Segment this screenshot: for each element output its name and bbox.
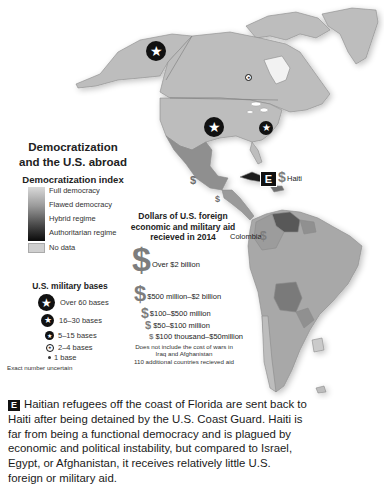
democratization-index-title: Democratization index bbox=[12, 174, 134, 185]
base-marker-central-us[interactable]: ★ bbox=[204, 117, 224, 137]
bases-label: 5–15 bases bbox=[58, 331, 97, 340]
falklands bbox=[316, 386, 326, 393]
bases-label: 2–4 bases bbox=[58, 343, 93, 352]
bases-legend-2-4: ★ 2–4 bases bbox=[46, 343, 93, 352]
legend-title-line1: Democratization bbox=[14, 140, 132, 155]
aid-dollar-haiti: $ bbox=[278, 169, 286, 185]
index-label-hybrid: Hybrid regime bbox=[49, 214, 96, 223]
no-data-swatch bbox=[28, 243, 45, 253]
dollar-medium-icon: $ bbox=[141, 306, 149, 320]
star-medium-icon: ★ bbox=[41, 314, 54, 327]
aid-note-line2: Iraq and Afghanistan bbox=[124, 350, 244, 357]
base-marker-canada[interactable]: ★ bbox=[245, 74, 252, 81]
aid-legend-100m-500m: $ $100–$500 million bbox=[141, 306, 211, 320]
bases-legend-16-30: ★ 16–30 bases bbox=[41, 314, 102, 327]
aid-dollar-colombia: $ bbox=[260, 229, 267, 243]
aid-label: Over $2 billion bbox=[152, 260, 200, 269]
legend-title-line2: and the U.S. abroad bbox=[14, 155, 132, 170]
bases-legend-1: 1 base bbox=[48, 353, 77, 362]
bases-legend-5-15: ★ 5–15 bases bbox=[45, 331, 97, 340]
star-tiny-icon: ★ bbox=[46, 344, 54, 352]
haiti-label: Haiti bbox=[287, 174, 302, 183]
aid-legend-title: Dollars of U.S. foreign economic and mil… bbox=[128, 211, 238, 243]
democratization-gradient-bar bbox=[28, 187, 45, 241]
aid-legend-100k-50m: $ $100 thousand–$50million bbox=[149, 332, 243, 341]
aid-dollar-central-america: $ bbox=[215, 194, 220, 204]
aid-note-line1: Does not include the cost of wars in bbox=[124, 343, 244, 350]
aid-label: $100 thousand–$50million bbox=[155, 332, 243, 341]
index-label-authoritarian: Authoritarian regime bbox=[49, 228, 117, 237]
index-label-no-data: No data bbox=[49, 243, 75, 252]
star-small-icon: ★ bbox=[45, 331, 54, 340]
base-marker-eastern-us[interactable]: ★ bbox=[259, 121, 273, 135]
aid-legend-50m-100m: $ $50–$100 million bbox=[145, 320, 210, 331]
legend-title: Democratization and the U.S. abroad bbox=[14, 140, 132, 170]
dollar-small-icon: $ bbox=[145, 320, 151, 331]
uruguay bbox=[312, 338, 324, 352]
aid-legend-note: Does not include the cost of wars in Ira… bbox=[124, 343, 244, 365]
greenland bbox=[322, 8, 378, 64]
dollar-xlarge-icon: $ bbox=[132, 242, 151, 276]
index-label-full: Full democracy bbox=[49, 186, 100, 195]
bases-legend-title: U.S. military bases bbox=[20, 281, 120, 291]
photo-marker-e[interactable]: E bbox=[260, 171, 277, 187]
star-large-icon: ★ bbox=[38, 294, 55, 311]
aid-legend-500m-2b: $ $500 million–$2 billion bbox=[134, 283, 221, 305]
photo-caption: EHaitian refugees off the coast of Flori… bbox=[8, 397, 308, 485]
aid-label: $100–$500 million bbox=[150, 309, 211, 318]
aid-title-line2: economic and military aid bbox=[128, 222, 238, 233]
aid-title-line1: Dollars of U.S. foreign bbox=[128, 211, 238, 222]
index-label-flawed: Flawed democracy bbox=[49, 200, 112, 209]
aid-dollar-mexico: $ bbox=[190, 174, 196, 186]
bases-legend-over-60: ★ Over 60 bases bbox=[38, 294, 109, 311]
bases-label: 1 base bbox=[54, 353, 77, 362]
dollar-tiny-icon: $ bbox=[149, 333, 153, 341]
dollar-large-icon: $ bbox=[134, 283, 146, 305]
base-marker-alaska[interactable]: ★ bbox=[146, 41, 166, 61]
bases-label: 16–30 bases bbox=[59, 316, 102, 325]
dot-icon bbox=[48, 356, 51, 359]
bases-legend-note: Exact number uncertain bbox=[7, 364, 72, 371]
florida bbox=[250, 142, 262, 164]
aid-note-line3: 110 additional countries recieved aid bbox=[124, 358, 244, 365]
aid-label: $500 million–$2 billion bbox=[147, 292, 221, 301]
caption-text: Haitian refugees off the coast of Florid… bbox=[8, 398, 307, 484]
bases-label: Over 60 bases bbox=[60, 298, 109, 307]
aid-legend-over-2b: $ Over $2 billion bbox=[132, 242, 200, 276]
arctic-islands bbox=[246, 12, 330, 40]
aid-label: $50–$100 million bbox=[153, 321, 210, 330]
caption-marker-e: E bbox=[8, 400, 20, 411]
